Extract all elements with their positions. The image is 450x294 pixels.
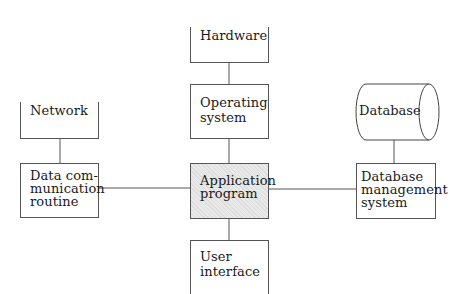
- node-data-communication-routine: Data com- munication routine: [20, 163, 99, 218]
- node-database-management-system: Database management system: [356, 163, 436, 219]
- node-label: Application program: [200, 174, 276, 200]
- node-label: Hardware: [200, 28, 267, 43]
- node-label: User interface: [200, 249, 260, 279]
- node-hardware: Hardware: [190, 27, 269, 63]
- node-operating-system: Operating system: [190, 84, 269, 139]
- node-label: Operating system: [200, 95, 268, 125]
- node-label: Database management system: [361, 170, 448, 209]
- node-user-interface: User interface: [190, 240, 269, 294]
- node-network: Network: [20, 102, 99, 139]
- node-label: Network: [30, 103, 88, 118]
- node-label: Data com- munication routine: [30, 169, 105, 208]
- node-application-program: Application program: [190, 163, 269, 219]
- node-database: Database: [359, 103, 421, 118]
